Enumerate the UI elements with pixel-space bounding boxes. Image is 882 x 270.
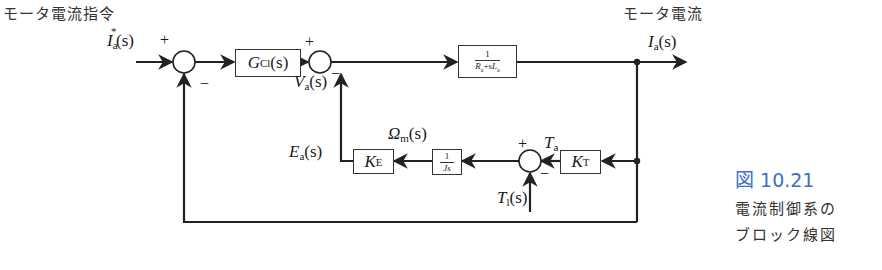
sum1-plus-sign: + [160,32,169,48]
controller-block: GCl(s) [235,49,301,77]
mechanical-block: 1 Js [432,149,462,175]
voltage-signal-label: Va(s) [294,73,327,92]
electrical-block: 1 Ra+sLa [458,45,517,78]
speed-signal-label: Ωm(s) [388,125,427,144]
input-title-label: モータ電流指令 [3,7,115,22]
output-title-label: モータ電流 [623,7,703,22]
summing-junction-1 [173,51,195,73]
sum2-minus-sign: − [331,66,340,82]
summing-junction-3 [519,150,541,172]
back-emf-signal-label: Ea(s) [289,143,322,162]
ke-block: KE [353,149,394,174]
branch-point-output [634,59,640,65]
sum1-minus-sign: − [200,76,209,92]
caption-line-1: 電流制御系の [735,196,837,222]
sum3-plus-sign: + [518,136,527,152]
branch-point-kt [634,158,640,164]
caption-line-2: ブロック線図 [735,222,837,248]
figure-number: 図 10.21 [735,171,814,190]
sum3-minus-sign: − [540,166,549,182]
output-signal-label: Ia(s) [648,33,677,52]
sum2-plus-sign: + [305,34,314,50]
torque-signal-label: Ta [544,134,558,153]
summing-junction-2 [309,51,331,73]
kt-block: KT [560,150,601,174]
input-signal-label: Ia*(s) [107,30,134,51]
load-torque-signal-label: Tl(s) [497,189,527,208]
